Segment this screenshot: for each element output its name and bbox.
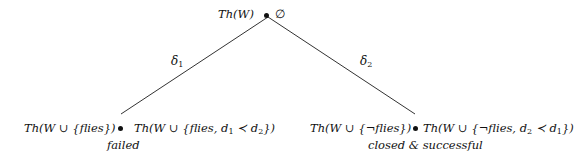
root-theory: Th(W) — [218, 9, 254, 21]
right-set: Th(W ∪ {¬flies, d2 ≺ d1}) — [423, 123, 574, 136]
left-node-dot — [118, 126, 123, 131]
edge-label-delta2: δ2 — [360, 55, 372, 69]
right-theory: Th(W ∪ {¬flies}) — [310, 123, 411, 135]
right-node-dot — [413, 126, 418, 131]
root-set: ∅ — [275, 9, 285, 21]
edge-label-delta1: δ1 — [171, 55, 183, 69]
left-set: Th(W ∪ {flies, d1 ≺ d2}) — [134, 123, 275, 136]
left-status: failed — [107, 140, 140, 152]
edge-delta2 — [268, 17, 415, 114]
edge-delta1 — [121, 17, 268, 114]
left-theory: Th(W ∪ {flies}) — [24, 123, 116, 135]
right-status: closed & successful — [368, 140, 483, 152]
root-node-dot — [264, 13, 269, 18]
